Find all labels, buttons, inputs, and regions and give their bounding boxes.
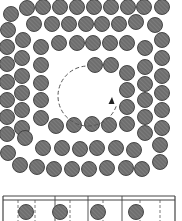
particle-icon [34,76,49,91]
particle-icon [155,103,170,118]
particle-icon [153,155,168,170]
particle-icon [155,33,170,48]
particle-icon [104,58,119,73]
particle-icon [120,66,135,81]
particle-icon [86,36,101,51]
particle-icon [112,17,127,32]
particle-icon [120,36,135,51]
particle-icon [19,205,34,220]
particle-icon [119,161,134,176]
particle-icon [87,0,102,15]
particle-icon [30,160,45,175]
particle-icon [16,33,31,48]
particle-icon [18,131,33,146]
particle-icon [73,142,88,157]
vortex-rotation-arrow [58,66,116,126]
particle-icon [127,143,142,158]
particle-icon [36,0,51,15]
particle-icon [53,0,68,15]
particle-icon [70,0,85,15]
diagram-canvas [0,0,182,221]
particle-icon [102,118,117,133]
particle-icon [90,141,105,156]
particle-icon [0,57,15,72]
particle-icon [85,117,100,132]
particle-icon [100,161,115,176]
particle-icon [138,110,153,125]
particle-icon [138,77,153,92]
particle-icon [49,119,64,134]
particle-icon [79,17,94,32]
particle-icon [138,60,153,75]
particle-icon [120,83,135,98]
vortex-particle-diagram [0,0,182,221]
particle-icon [34,58,49,73]
particle-icon [129,15,144,30]
particle-icon [13,158,28,173]
particle-icon [155,121,170,136]
particle-icon [20,1,35,16]
particle-icon [121,0,136,15]
particle-icon [34,93,49,108]
particle-icon [0,75,15,90]
particle-icon [1,23,16,38]
particle-icon [34,111,49,126]
cell-strip-panel [3,196,175,221]
particle-icon [53,205,68,220]
particle-icon [4,7,19,22]
particle-icon [104,0,119,15]
particle-icon [153,138,168,153]
particle-icon [47,162,62,177]
particle-icon [67,118,82,133]
particle-icon [103,36,118,51]
particle-icon [95,17,110,32]
particle-icon [27,17,42,32]
particle-icon [120,117,135,132]
particle-icon [45,17,60,32]
particle-icon [34,40,49,55]
particle-icon [0,110,15,125]
particle-icon [65,162,80,177]
particle-icon [0,93,15,108]
particle-icon [120,100,135,115]
particle-icon [15,103,30,118]
particle-icon [155,86,170,101]
particle-icon [135,162,150,177]
particle-icon [36,141,51,156]
particle-field [0,0,170,177]
particle-icon [52,36,67,51]
particle-icon [15,51,30,66]
particle-icon [15,69,30,84]
particle-icon [129,205,144,220]
particle-icon [15,86,30,101]
particle-icon [155,69,170,84]
particle-icon [137,0,152,15]
arrowhead-icon [109,97,115,104]
particle-icon [91,205,106,220]
particle-icon [62,17,77,32]
particle-icon [148,18,163,33]
particle-icon [138,126,153,141]
particle-icon [155,51,170,66]
particle-icon [138,93,153,108]
particle-icon [109,141,124,156]
particle-icon [155,0,170,15]
particle-icon [55,141,70,156]
particle-icon [82,162,97,177]
particle-icon [70,36,85,51]
particle-icon [0,40,15,55]
vortex-dashed-arc [58,66,116,126]
particle-icon [1,146,16,161]
particle-icon [0,127,15,142]
particle-icon [138,41,153,56]
particle-icon [88,58,103,73]
